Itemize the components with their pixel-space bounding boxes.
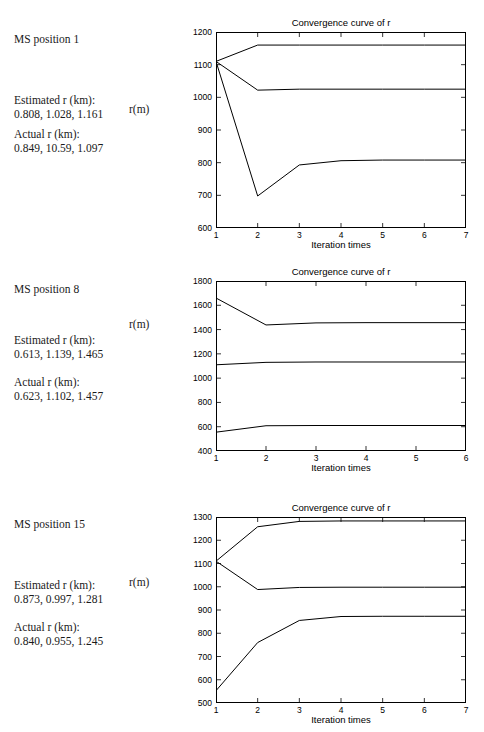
actual-r-values: 0.623, 1.102, 1.457 [14,389,103,403]
y-tick-label: 1200 [193,27,212,37]
chart-title: Convergence curve of r [216,266,466,277]
y-tick-label: 700 [198,190,212,200]
chart-title: Convergence curve of r [216,17,466,28]
series-line [216,616,466,690]
y-tick-label: 1800 [193,276,212,286]
series-line [216,45,466,61]
convergence-chart-2: Convergence curve of r 40060080010001200… [216,281,466,451]
series-line [216,61,466,196]
actual-r-block: Actual r (km): 0.623, 1.102, 1.457 [14,375,103,403]
estimated-r-block: Estimated r (km): 0.613, 1.139, 1.465 [14,333,103,361]
estimated-r-values: 0.808, 1.028, 1.161 [14,107,103,121]
y-tick-label: 1100 [194,559,212,569]
actual-r-header: Actual r (km): [14,620,103,634]
series-line [216,298,466,325]
ms-position-label: MS position 1 [14,32,79,46]
y-tick-label: 900 [198,605,212,615]
y-tick-label: 700 [198,652,212,662]
series-line [216,426,466,433]
series-line [216,362,466,365]
y-axis-label: r(m) [129,318,149,330]
y-tick-label: 1000 [193,373,212,383]
y-tick-label: 400 [198,446,212,456]
actual-r-block: Actual r (km): 0.849, 10.59, 1.097 [14,127,103,155]
estimated-r-header: Estimated r (km): [14,578,103,592]
x-axis-title: Iteration times [216,239,466,250]
y-tick-label: 800 [198,158,212,168]
plot-lines [216,281,466,451]
panel-ms-position-1: MS position 1 Estimated r (km): 0.808, 1… [0,0,484,258]
x-axis-title: Iteration times [216,714,466,725]
y-axis-label: r(m) [129,576,149,588]
actual-r-header: Actual r (km): [14,127,103,141]
ms-position-label: MS position 15 [14,517,85,531]
series-line [216,521,466,561]
actual-r-header: Actual r (km): [14,375,103,389]
y-axis-label: r(m) [129,103,149,115]
convergence-chart-1: Convergence curve of r 60070080090010001… [216,32,466,228]
estimated-r-header: Estimated r (km): [14,93,103,107]
y-tick-label: 1100 [194,60,212,70]
y-tick-label: 600 [198,675,212,685]
y-tick-label: 1400 [193,325,212,335]
actual-r-values: 0.840, 0.955, 1.245 [14,634,103,648]
estimated-r-block: Estimated r (km): 0.873, 0.997, 1.281 [14,578,103,606]
estimated-r-values: 0.613, 1.139, 1.465 [14,347,103,361]
actual-r-values: 0.849, 10.59, 1.097 [14,141,103,155]
y-tick-label: 1200 [193,535,212,545]
series-line [216,61,466,90]
y-tick-label: 800 [198,628,212,638]
y-tick-label: 1000 [193,582,212,592]
plot-lines [216,32,466,228]
y-tick-label: 600 [198,422,212,432]
estimated-r-header: Estimated r (km): [14,333,103,347]
y-tick-label: 1300 [193,512,212,522]
convergence-chart-3: Convergence curve of r 50060070080090010… [216,517,466,703]
y-tick-label: 900 [198,125,212,135]
estimated-r-block: Estimated r (km): 0.808, 1.028, 1.161 [14,93,103,121]
estimated-r-values: 0.873, 0.997, 1.281 [14,592,103,606]
series-line [216,561,466,589]
actual-r-block: Actual r (km): 0.840, 0.955, 1.245 [14,620,103,648]
chart-title: Convergence curve of r [216,502,466,513]
y-tick-label: 500 [198,698,212,708]
y-tick-label: 1200 [193,349,212,359]
y-tick-label: 1600 [193,300,212,310]
ms-position-label: MS position 8 [14,282,79,296]
x-axis-title: Iteration times [216,462,466,473]
panel-ms-position-8: MS position 8 Estimated r (km): 0.613, 1… [0,258,484,488]
y-tick-label: 1000 [193,92,212,102]
panel-ms-position-15: MS position 15 Estimated r (km): 0.873, … [0,488,484,732]
plot-lines [216,517,466,703]
y-tick-label: 800 [198,397,212,407]
y-tick-label: 600 [198,223,212,233]
